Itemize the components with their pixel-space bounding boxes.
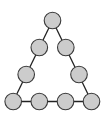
- node-circle: [31, 39, 48, 56]
- edge-line: [13, 21, 52, 102]
- node-circle: [57, 93, 74, 110]
- node-circle: [18, 66, 35, 83]
- triangle-node-diagram: [0, 0, 105, 118]
- node-circle: [71, 66, 88, 83]
- nodes-layer: [5, 12, 100, 110]
- node-circle: [44, 12, 61, 29]
- node-circle: [5, 93, 22, 110]
- node-circle: [83, 93, 100, 110]
- node-circle: [58, 39, 75, 56]
- node-circle: [31, 93, 48, 110]
- edges-layer: [13, 21, 91, 102]
- edge-line: [53, 21, 92, 102]
